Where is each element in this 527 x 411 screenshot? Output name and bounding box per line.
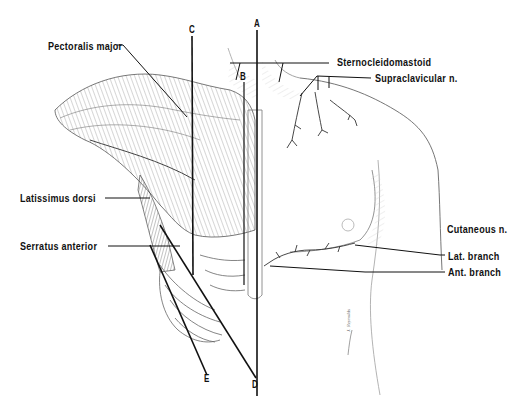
intercostal-branches <box>264 243 355 266</box>
letter-c: C <box>189 24 195 35</box>
label-lat-branch: Lat. branch <box>448 250 500 262</box>
artist-signature: J. Reynolds <box>346 309 351 332</box>
letter-e: E <box>204 373 209 384</box>
label-sternocleidomastoid: Sternocleidomastoid <box>337 56 431 68</box>
anatomy-figure: Pectoralis major Latissimus dorsi Serrat… <box>0 0 527 411</box>
letter-b: B <box>240 71 246 82</box>
label-supraclavicular-n: Supraclavicular n. <box>375 72 457 84</box>
line-c <box>192 36 193 275</box>
letter-d: D <box>252 379 258 390</box>
label-pectoralis-major: Pectoralis major <box>48 40 122 52</box>
line-e <box>150 245 207 375</box>
signature-mark <box>348 330 352 355</box>
label-cutaneous-n: Cutaneous n. <box>447 223 507 235</box>
label-ant-branch: Ant. branch <box>448 266 501 278</box>
letter-a: A <box>254 18 260 29</box>
label-latissimus-dorsi: Latissimus dorsi <box>20 192 96 204</box>
label-serratus-anterior: Serratus anterior <box>20 240 97 252</box>
supraclavicular-nerves <box>287 92 357 148</box>
anatomy-drawing <box>0 0 527 411</box>
torso-outline <box>228 48 442 395</box>
nipple <box>342 219 354 231</box>
